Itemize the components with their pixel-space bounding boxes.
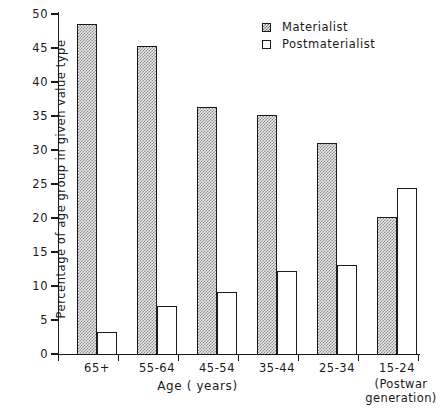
bar-materialist-35-44 (257, 115, 277, 355)
y-tick (51, 319, 58, 320)
bar-postmaterialist-15-24 (397, 188, 417, 355)
y-tick-label: 15 (8, 245, 48, 259)
y-tick (51, 13, 58, 14)
bar-postmaterialist-35-44 (277, 271, 297, 355)
y-tick-label: 30 (8, 143, 48, 157)
legend-label: Materialist (282, 20, 348, 34)
bar-postmaterialist-25-34 (337, 265, 357, 355)
y-tick (51, 47, 58, 48)
bar-postmaterialist-65plus (97, 332, 117, 355)
x-tick-label: 15-24 (352, 361, 440, 375)
y-tick (51, 183, 58, 184)
bar-materialist-55-64 (137, 46, 157, 355)
x-tick (418, 354, 419, 361)
y-tick-label: 40 (8, 75, 48, 89)
x-tick (58, 354, 59, 361)
y-tick (51, 115, 58, 116)
bar-materialist-65plus (77, 24, 97, 355)
y-tick-label: 35 (8, 109, 48, 123)
y-tick-label: 50 (8, 7, 48, 21)
x-tick (298, 354, 299, 361)
bar-materialist-45-54 (197, 107, 217, 355)
x-tick (178, 354, 179, 361)
legend-label: Postmaterialist (282, 37, 375, 51)
y-axis-line (58, 12, 59, 355)
y-tick-label: 45 (8, 41, 48, 55)
y-tick (51, 353, 58, 354)
y-tick-label: 20 (8, 211, 48, 225)
y-tick-label: 25 (8, 177, 48, 191)
y-tick (51, 285, 58, 286)
empty-square-icon (262, 40, 271, 49)
y-tick (51, 217, 58, 218)
bar-postmaterialist-45-54 (217, 292, 237, 355)
y-axis-title: Percentage of age group in given value t… (54, 14, 68, 344)
x-tick (358, 354, 359, 361)
y-tick (51, 81, 58, 82)
bar-materialist-15-24 (377, 217, 397, 355)
x-axis-title: Age ( years) (0, 379, 431, 393)
x-tick (238, 354, 239, 361)
y-tick-label: 10 (8, 279, 48, 293)
x-axis-title-text: Age ( years) (157, 379, 237, 393)
y-tick (51, 149, 58, 150)
y-tick (51, 251, 58, 252)
y-tick-label: 5 (8, 313, 48, 327)
bar-postmaterialist-55-64 (157, 306, 177, 355)
y-tick-label: 0 (8, 347, 48, 361)
hatched-square-icon (262, 23, 271, 32)
x-tick (118, 354, 119, 361)
bar-materialist-25-34 (317, 143, 337, 355)
